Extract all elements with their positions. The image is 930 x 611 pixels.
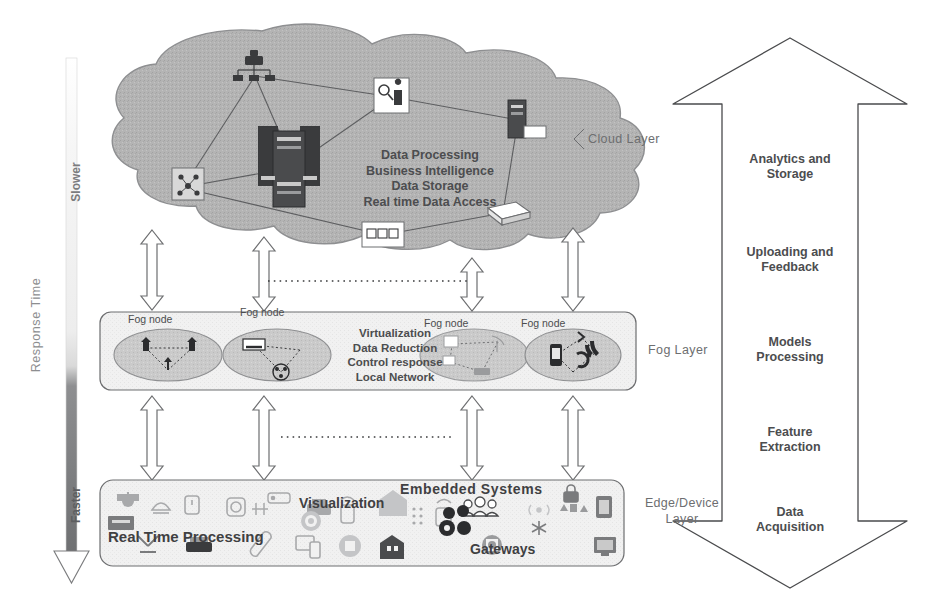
fog-capability-4: Local Network <box>325 370 465 385</box>
process-stage-1-line2: Storage <box>725 167 855 182</box>
mobile-phone-icon <box>550 344 562 366</box>
fog-layer-label: Fog Layer <box>648 343 708 357</box>
gateway-icon <box>243 339 265 350</box>
cloud-capability-4: Real time Data Access <box>330 195 530 211</box>
monitoring-screen-icon <box>374 78 409 113</box>
fog-node-2-caption: Fog node <box>240 306 284 318</box>
fog-capability-2: Data Reduction <box>325 341 465 356</box>
process-stage-4-line1: Feature <box>725 425 855 440</box>
edge-layer-label-line2: Layer <box>636 511 728 527</box>
response-time-slower-label: Slower <box>69 142 83 222</box>
cloud-capability-2: Business Intelligence <box>330 164 530 180</box>
cloud-layer-label: Cloud Layer <box>588 132 660 146</box>
edge-caption-visualization: Visualization <box>299 495 384 511</box>
fog-capability-3: Control response <box>325 355 465 370</box>
process-stage-4-line2: Extraction <box>725 440 855 455</box>
network-chip-icon <box>172 168 204 200</box>
edge-caption-gateways: Gateways <box>470 541 535 557</box>
cloud-capabilities: Data Processing Business Intelligence Da… <box>330 148 530 210</box>
fog-capabilities: Virtualization Data Reduction Control re… <box>325 326 465 384</box>
edge-layer-label: Edge/Device Layer <box>636 495 728 527</box>
edge-layer-box <box>100 480 624 566</box>
fingerprint-icon <box>301 511 321 531</box>
fog-node-1-caption: Fog node <box>128 313 172 325</box>
edge-caption-embedded-systems: Embedded Systems <box>400 481 543 497</box>
fog-node-1 <box>114 329 222 381</box>
process-stage-uploading-and-feedback: Uploading and Feedback <box>725 245 855 275</box>
process-stage-3-line1: Models <box>725 335 855 350</box>
fog-node-4 <box>525 329 621 381</box>
fog-node-2 <box>223 329 331 381</box>
process-stage-data-acquisition: Data Acquisition <box>725 505 855 535</box>
process-stage-5-line1: Data <box>725 505 855 520</box>
process-stage-analytics-and-storage: Analytics and Storage <box>725 152 855 182</box>
chip-icon <box>339 535 361 557</box>
router-icon <box>474 368 490 375</box>
process-stage-1-line1: Analytics and <box>725 152 855 167</box>
blade-server-icon <box>362 222 404 247</box>
tablet-icon <box>596 496 612 518</box>
response-time-title: Response Time <box>29 245 43 405</box>
edge-caption-real-time-processing: Real Time Processing <box>108 528 264 545</box>
process-stage-models-processing: Models Processing <box>725 335 855 365</box>
process-stage-2-line1: Uploading and <box>725 245 855 260</box>
cloud-capability-1: Data Processing <box>330 148 530 164</box>
process-stage-5-line2: Acquisition <box>725 520 855 535</box>
fog-node-3-caption: Fog node <box>424 317 468 329</box>
cloud-capability-3: Data Storage <box>330 179 530 195</box>
cloud-layer-shape <box>112 24 644 249</box>
process-stage-3-line2: Processing <box>725 350 855 365</box>
fog-edge-connectors <box>141 396 584 480</box>
process-stage-feature-extraction: Feature Extraction <box>725 425 855 455</box>
diagram-canvas: Response Time Slower Faster Data Process… <box>0 0 930 611</box>
edge-layer-label-line1: Edge/Device <box>636 495 728 511</box>
response-time-faster-label: Faster <box>69 465 83 545</box>
fog-node-4-caption: Fog node <box>521 317 565 329</box>
process-stage-2-line2: Feedback <box>725 260 855 275</box>
